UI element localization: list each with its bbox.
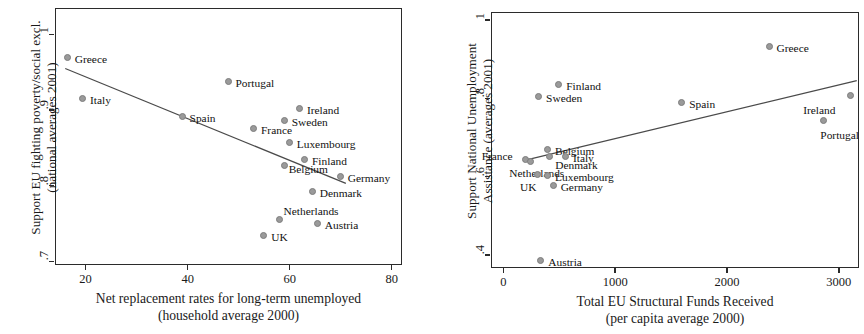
- x-tick-right-1: [614, 268, 615, 273]
- x-tick-label-right-3: 3000: [814, 276, 864, 289]
- scatter-label-right-spain: Spain: [689, 99, 715, 110]
- scatter-point-right-ireland: [847, 92, 854, 99]
- y-axis-title-right-line2: Assistance (averages 2001): [480, 0, 496, 264]
- y-axis-title-left-line1: Support EU fighting poverty/social excl.: [28, 0, 44, 261]
- scatter-label-left-germany: Germany: [348, 173, 390, 184]
- x-tick-left-2: [289, 265, 290, 270]
- scatter-point-right-denmark: [546, 153, 553, 160]
- scatter-label-left-greece: Greece: [75, 54, 107, 65]
- scatter-label-right-ireland: Ireland: [803, 105, 835, 116]
- y-tick-left-0: [49, 261, 54, 262]
- scatter-point-left-spain: [179, 113, 186, 120]
- x-tick-right-3: [838, 268, 839, 273]
- scatter-point-right-finland: [555, 81, 562, 88]
- scatter-point-left-finland: [301, 156, 308, 163]
- x-axis-title-right-line2: (per capita average 2000): [451, 311, 864, 328]
- x-axis-title-right: Total EU Structural Funds Received (per …: [451, 294, 864, 328]
- scatter-point-right-greece: [766, 43, 773, 50]
- x-tick-label-left-3: 80: [367, 273, 417, 286]
- x-tick-left-1: [187, 265, 188, 270]
- y-tick-right-0: [485, 254, 490, 255]
- scatter-label-right-uk: UK: [520, 182, 536, 193]
- y-tick-left-3: [49, 34, 54, 35]
- x-axis-title-right-line1: Total EU Structural Funds Received: [451, 294, 864, 311]
- y-axis-title-right: Support National Unemployment Assistance…: [464, 0, 496, 264]
- scatter-label-left-denmark: Denmark: [320, 188, 362, 199]
- scatter-point-right-uk: [534, 171, 541, 178]
- scatter-label-left-ireland: Ireland: [307, 105, 339, 116]
- scatter-point-left-luxembourg: [286, 139, 293, 146]
- scatter-point-right-italy: [562, 153, 569, 160]
- scatter-label-left-italy: Italy: [90, 95, 111, 106]
- x-tick-left-3: [391, 265, 392, 270]
- chart-panel-left: Support EU fighting poverty/social excl.…: [0, 0, 429, 334]
- scatter-point-left-portugal: [225, 78, 232, 85]
- scatter-point-right-belgium: [544, 146, 551, 153]
- scatter-point-right-luxembourg: [544, 172, 551, 179]
- x-axis-title-left-line2: (household average 2000): [15, 308, 442, 325]
- x-tick-label-right-2: 2000: [702, 276, 752, 289]
- scatter-label-left-finland: Finland: [312, 156, 347, 167]
- scatter-point-left-germany: [337, 173, 344, 180]
- scatter-point-left-denmark: [309, 188, 316, 195]
- x-tick-left-0: [85, 265, 86, 270]
- scatter-point-left-italy: [79, 95, 86, 102]
- chart-panel-right: Support National Unemployment Assistance…: [430, 0, 859, 334]
- y-axis-title-left-line2: (national averages 2001): [44, 0, 60, 261]
- scatter-point-left-greece: [64, 54, 71, 61]
- x-tick-right-2: [726, 268, 727, 273]
- scatter-label-right-sweden: Sweden: [546, 93, 582, 104]
- scatter-label-right-austria: Austria: [548, 257, 582, 268]
- scatter-label-left-sweden: Sweden: [292, 117, 328, 128]
- x-tick-label-left-1: 40: [163, 273, 213, 286]
- scatter-label-left-spain: Spain: [190, 113, 216, 124]
- x-axis-title-left-line1: Net replacement rates for long-term unem…: [15, 291, 442, 308]
- y-tick-right-3: [485, 19, 490, 20]
- scatter-point-left-belgium: [281, 162, 288, 169]
- x-tick-label-left-0: 20: [61, 273, 111, 286]
- scatter-point-left-sweden: [281, 117, 288, 124]
- scatter-label-right-greece: Greece: [777, 43, 809, 54]
- scatter-label-right-france: France: [482, 151, 513, 162]
- scatter-point-left-netherlands: [276, 216, 283, 223]
- x-tick-label-right-0: 0: [478, 276, 528, 289]
- x-tick-right-0: [503, 268, 504, 273]
- scatter-point-left-ireland: [296, 105, 303, 112]
- scatter-label-right-italy: Italy: [573, 153, 594, 164]
- y-tick-right-2: [485, 98, 490, 99]
- scatter-point-right-germany: [550, 182, 557, 189]
- x-axis-title-left: Net replacement rates for long-term unem…: [15, 291, 442, 325]
- scatter-label-right-finland: Finland: [566, 81, 601, 92]
- scatter-point-left-austria: [314, 220, 321, 227]
- scatter-label-left-luxembourg: Luxembourg: [297, 139, 356, 150]
- scatter-label-left-netherlands: Netherlands: [284, 206, 339, 217]
- scatter-label-right-germany: Germany: [561, 182, 603, 193]
- scatter-label-left-portugal: Portugal: [236, 78, 275, 89]
- x-tick-label-left-2: 60: [265, 273, 315, 286]
- scatter-label-left-uk: UK: [271, 232, 287, 243]
- y-axis-title-left: Support EU fighting poverty/social excl.…: [28, 0, 60, 261]
- scatter-label-left-austria: Austria: [325, 220, 359, 231]
- scatter-label-right-portugal: Portugal: [820, 130, 859, 141]
- y-axis-title-right-line1: Support National Unemployment: [464, 0, 480, 264]
- x-tick-label-right-1: 1000: [590, 276, 640, 289]
- y-tick-left-2: [49, 109, 54, 110]
- scatter-point-left-france: [250, 125, 257, 132]
- scatter-label-left-france: France: [261, 125, 292, 136]
